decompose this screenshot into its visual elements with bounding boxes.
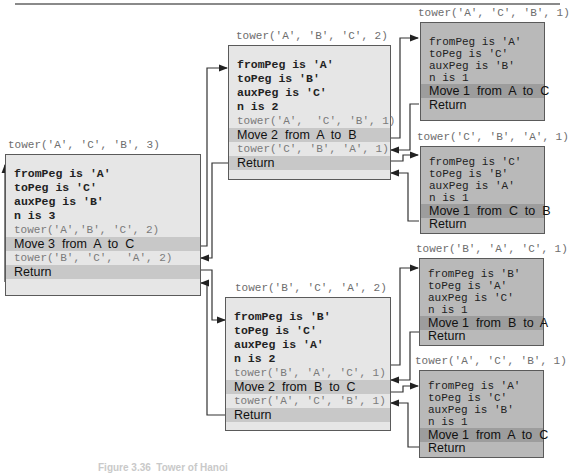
return-line: Return: [421, 217, 467, 231]
frame-root: fromPeg is 'A' toPeg is 'C' auxPeg is 'B…: [5, 154, 201, 296]
frame-call-label-right2: tower('B', 'C', 'A', 2): [235, 282, 387, 294]
frame-var-line: fromPeg is 'A': [229, 58, 334, 72]
move-line: Move 1 from B to A: [420, 316, 543, 330]
frame-var-line: toPeg is 'B': [229, 72, 320, 86]
move-line: Move 3 from A to C: [6, 237, 200, 251]
return-line: Return: [226, 408, 390, 422]
recursive-call-line: tower('A','B', 'C', 2): [6, 223, 159, 237]
frame-call-label-leaf3: tower('B', 'A', 'C', 1): [416, 243, 568, 255]
frame-var-line: auxPeg is 'B': [6, 195, 104, 209]
move-line: Move 2 from B to C: [226, 380, 390, 394]
recursive-call-line: tower('B', 'A', 'C', 1): [226, 366, 386, 380]
frame-var-line: auxPeg is 'C': [229, 86, 327, 100]
move-line: Move 1 from C to B: [421, 204, 544, 218]
frame-leaf2: fromPeg is 'C' toPeg is 'B' auxPeg is 'A…: [420, 146, 545, 234]
return-line: Return: [420, 441, 466, 455]
frame-call-label-root: tower('A', 'C', 'B', 3): [8, 139, 160, 151]
recursive-call-line: tower('A', 'C', 'B', 1): [229, 114, 395, 128]
frame-var-line: n is 2: [226, 352, 275, 366]
frame-var-line: n is 1: [421, 71, 469, 85]
frame-call-label-left2: tower('A', 'B', 'C', 2): [236, 30, 388, 42]
recursive-call-line: tower('A', 'C', 'B', 1): [226, 394, 386, 408]
frame-var-line: fromPeg is 'A': [6, 167, 111, 181]
frame-leaf3: fromPeg is 'B' toPeg is 'A' auxPeg is 'C…: [419, 258, 544, 346]
recursive-call-line: tower('B', 'C', 'A', 2): [6, 251, 172, 265]
frame-leaf1: fromPeg is 'A' toPeg is 'C' auxPeg is 'B…: [420, 22, 545, 121]
frame-var-line: n is 3: [6, 209, 55, 223]
move-line: Move 1 from A to C: [421, 84, 544, 98]
move-line: Move 1 from A to C: [420, 428, 543, 442]
frame-var-line: n is 1: [420, 415, 468, 429]
frame-var-line: n is 1: [421, 191, 469, 205]
frame-var-line: toPeg is 'C': [226, 324, 317, 338]
frame-var-line: n is 2: [229, 100, 278, 114]
frame-var-line: toPeg is 'C': [6, 181, 97, 195]
frame-var-line: n is 1: [420, 303, 468, 317]
frame-call-label-leaf2: tower('C', 'B', 'A', 1): [417, 131, 569, 143]
frame-leaf4: fromPeg is 'A' toPeg is 'C' auxPeg is 'B…: [419, 370, 544, 458]
frame-right2: fromPeg is 'B' toPeg is 'C' auxPeg is 'A…: [225, 297, 391, 431]
frame-var-line: auxPeg is 'A': [226, 338, 324, 352]
return-line: Return: [229, 156, 390, 170]
frame-call-label-leaf4: tower('A', 'C', 'B', 1): [415, 355, 567, 367]
move-line: Move 2 from A to B: [229, 128, 390, 142]
return-line: Return: [6, 265, 200, 279]
recursive-call-line: tower('C', 'B', 'A', 1): [229, 142, 389, 156]
return-line: Return: [420, 329, 466, 343]
frame-call-label-leaf1: tower('A', 'C', 'B', 1): [418, 7, 570, 19]
frame-left2: fromPeg is 'A' toPeg is 'B' auxPeg is 'C…: [228, 45, 391, 180]
figure-caption: Figure 3.36 Tower of Hanoi: [98, 462, 228, 473]
frame-var-line: fromPeg is 'B': [226, 310, 331, 324]
return-line: Return: [421, 98, 467, 112]
